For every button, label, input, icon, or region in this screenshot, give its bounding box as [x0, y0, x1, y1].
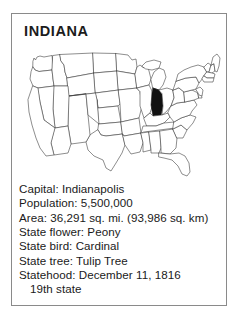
fact-state-flower: State flower: Peony — [19, 225, 222, 239]
fact-state-bird: State bird: Cardinal — [19, 239, 222, 253]
fact-statehood-order: 19th state — [19, 282, 222, 296]
fact-area: Area: 36,291 sq. mi. (93,986 sq. km) — [19, 211, 222, 225]
state-fact-card: INDIANA — [11, 13, 227, 306]
fact-population: Population: 5,500,000 — [19, 196, 222, 210]
fact-card-page: INDIANA — [0, 0, 239, 320]
state-facts-list: Capital: Indianapolis Population: 5,500,… — [19, 182, 222, 297]
us-map-outline-icon — [18, 50, 222, 178]
fact-capital: Capital: Indianapolis — [19, 182, 222, 196]
page-title: INDIANA — [24, 24, 89, 39]
fact-state-tree: State tree: Tulip Tree — [19, 254, 222, 268]
fact-statehood: Statehood: December 11, 1816 — [19, 268, 222, 282]
us-map-figure — [18, 50, 222, 178]
